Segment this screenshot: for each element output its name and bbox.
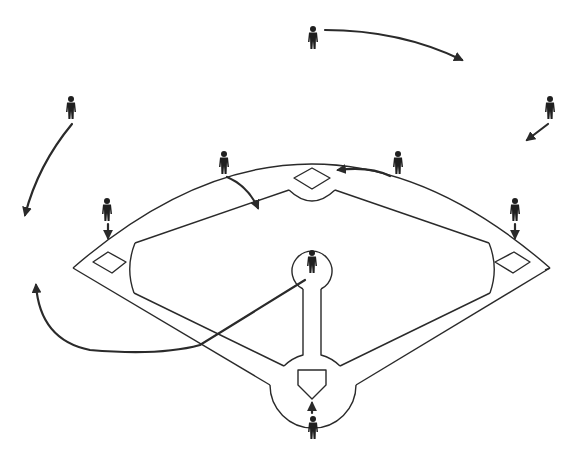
infield-top-right (335, 190, 489, 243)
right-foul-line (356, 268, 550, 385)
first-base (495, 252, 530, 273)
right-fielder-icon (545, 96, 555, 119)
second-base-cutout (289, 190, 335, 201)
ss-arrow (227, 177, 258, 208)
first-baseman-icon (510, 198, 520, 221)
p-arrow (36, 280, 305, 352)
rf-arrow (527, 124, 548, 140)
first-base-cutout (489, 243, 494, 293)
lf-arrow (25, 124, 72, 215)
baseball-field-diagram (0, 0, 580, 470)
players (66, 26, 555, 439)
third-base-cutout (130, 243, 135, 293)
center-fielder-icon (308, 26, 318, 49)
third-baseman-icon (102, 198, 112, 221)
shortstop-icon (219, 151, 229, 174)
field-outline (73, 164, 550, 428)
2b-arrow (338, 169, 390, 176)
catcher-icon (308, 416, 318, 439)
infield-left-edge (134, 293, 284, 366)
movement-arrows (25, 30, 548, 413)
cf-arrow (325, 30, 462, 60)
infield-top-left (135, 190, 289, 243)
second-base (294, 168, 330, 189)
third-base (93, 252, 126, 273)
infield-right-edge (340, 293, 490, 366)
left-foul-line (73, 268, 270, 385)
second-baseman-icon (393, 151, 403, 174)
pitcher-icon (307, 250, 317, 273)
home-plate (298, 370, 326, 399)
left-fielder-icon (66, 96, 76, 119)
